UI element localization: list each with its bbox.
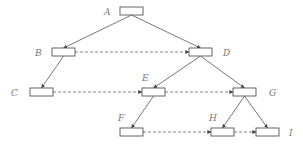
edge-g-i — [245, 96, 268, 128]
node-box — [211, 128, 234, 136]
node-label: H — [208, 113, 217, 123]
node-e: E — [141, 73, 165, 96]
node-c: C — [11, 88, 53, 98]
tree-edges — [42, 15, 268, 128]
node-label: E — [141, 73, 149, 83]
edge-d-e — [154, 56, 201, 88]
node-d: D — [189, 48, 230, 58]
node-i: I — [256, 128, 293, 138]
node-label: I — [288, 128, 293, 138]
edge-a-d — [132, 15, 201, 48]
node-box — [189, 48, 212, 56]
node-label: G — [269, 88, 276, 98]
node-box — [120, 128, 143, 136]
node-box — [52, 48, 75, 56]
edge-d-g — [201, 56, 245, 88]
edge-b-c — [42, 56, 64, 88]
edge-e-f — [132, 96, 154, 128]
node-box — [233, 88, 256, 96]
edge-g-h — [223, 96, 245, 128]
node-box — [142, 88, 165, 96]
edge-a-b — [64, 15, 132, 48]
node-a: A — [103, 7, 143, 17]
node-box — [120, 7, 143, 15]
node-g: G — [233, 88, 276, 98]
tree-nodes: ABDCEGFHI — [11, 7, 293, 138]
node-label: D — [222, 48, 230, 58]
node-box — [30, 88, 53, 96]
node-label: C — [11, 88, 18, 98]
node-label: A — [103, 7, 111, 17]
tree-diagram: ABDCEGFHI — [0, 0, 303, 147]
node-b: B — [34, 48, 75, 58]
node-box — [256, 128, 279, 136]
node-label: F — [117, 113, 125, 123]
node-label: B — [34, 48, 42, 58]
